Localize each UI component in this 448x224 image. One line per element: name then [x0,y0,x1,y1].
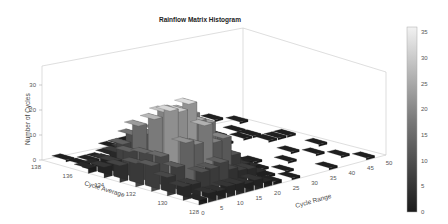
colorbar-tick-label: 0 [421,209,425,215]
histogram-bar [277,146,299,154]
colorbar-tick-label: 20 [421,106,428,112]
colorbar-tick-label: 35 [421,29,428,35]
histogram-bar [352,152,374,160]
y-tick-label: 136 [63,173,74,179]
histogram-bar [274,155,296,163]
y-tick-label: 130 [157,200,168,206]
z-axis-ticks: 0102030 [29,82,42,163]
x-tick-label: 25 [293,185,300,191]
x-tick-label: 20 [274,190,281,196]
histogram-bar [305,138,327,146]
x-tick-label: 0 [201,210,205,216]
x-tick-label: 10 [237,200,244,206]
bar3d-chart: 0102030 128130132134136138 0510152025303… [0,0,448,224]
y-tick-label: 128 [189,209,200,215]
colorbar-tick-label: 30 [421,55,428,61]
x-tick-label: 5 [220,205,224,211]
colorbar-tick-label: 5 [421,183,425,189]
histogram-bar [302,148,324,156]
colorbar-tick-label: 10 [421,158,428,164]
colorbar-tick-label: 15 [421,132,428,138]
x-tick-label: 50 [386,160,393,166]
histogram-bar [315,162,337,170]
histogram-bar [278,172,300,180]
histogram-bar [271,165,293,173]
z-axis-label: Number of Cycles [24,93,32,145]
x-tick-label: 45 [367,165,374,171]
x-tick-label: 15 [255,195,262,201]
histogram-bar [327,150,349,158]
y-tick-label: 132 [126,191,137,197]
x-axis-label: Cycle Range [294,192,332,210]
histogram-bar [226,116,248,124]
colorbar-tick-label: 25 [421,81,428,87]
y-tick-label: 138 [31,164,42,170]
colorbar: 05101520253035 [407,27,428,215]
x-tick-label: 40 [348,170,355,176]
z-tick-label: 30 [29,82,36,88]
x-tick-label: 35 [330,175,337,181]
x-tick-label: 30 [311,180,318,186]
z-tick-label: 0 [33,157,37,163]
